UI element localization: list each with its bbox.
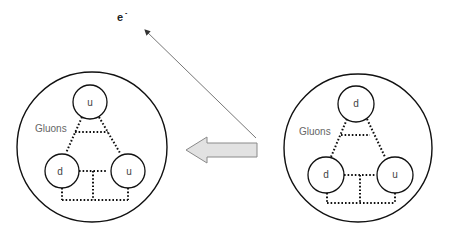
electron-charge-superscript: - [125, 9, 128, 16]
right-quark-bottom-right: u [377, 157, 413, 193]
electron-emission: e - [117, 9, 256, 138]
left-quark-top: u [73, 85, 107, 119]
transition-arrow-icon [186, 137, 257, 163]
right-quark-top: d [338, 86, 374, 122]
electron-label: e [117, 11, 123, 23]
svg-text:d: d [353, 98, 359, 109]
electron-path-arrow [145, 30, 256, 138]
right-quark-bottom-left: d [308, 157, 344, 193]
left-particle: Gluons u d u [17, 72, 167, 222]
right-gluons-label: Gluons [299, 126, 331, 137]
svg-text:u: u [87, 97, 93, 108]
right-particle: Gluons d d u [284, 74, 432, 222]
svg-text:d: d [57, 166, 63, 177]
svg-text:d: d [323, 169, 329, 180]
quark-diagram: e - Gluons u d u [0, 0, 449, 235]
svg-text:u: u [126, 166, 132, 177]
left-quark-bottom-left: d [45, 154, 79, 188]
svg-text:u: u [392, 169, 398, 180]
left-quark-bottom-right: u [111, 154, 145, 188]
left-gluons-label: Gluons [35, 123, 67, 134]
